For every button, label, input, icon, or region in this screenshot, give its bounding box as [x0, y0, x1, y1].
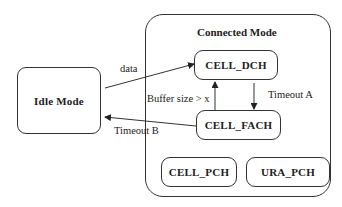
ura-pch-label: URA_PCH [261, 166, 315, 178]
cell-fach-state: CELL_FACH [196, 110, 281, 140]
label-timeout-b: Timeout B [114, 125, 159, 136]
label-buffer-size: Buffer size > x [147, 93, 210, 104]
label-timeout-a: Timeout A [268, 89, 313, 100]
idle-mode-label: Idle Mode [34, 95, 84, 107]
label-data: data [120, 63, 138, 74]
cell-pch-state: CELL_PCH [161, 157, 237, 187]
idle-mode-state: Idle Mode [17, 67, 101, 134]
cell-pch-label: CELL_PCH [169, 166, 229, 178]
cell-dch-state: CELL_DCH [194, 50, 278, 80]
cell-dch-label: CELL_DCH [205, 59, 267, 71]
cell-fach-label: CELL_FACH [205, 119, 273, 131]
ura-pch-state: URA_PCH [246, 157, 330, 187]
connected-mode-title: Connected Mode [197, 26, 277, 38]
